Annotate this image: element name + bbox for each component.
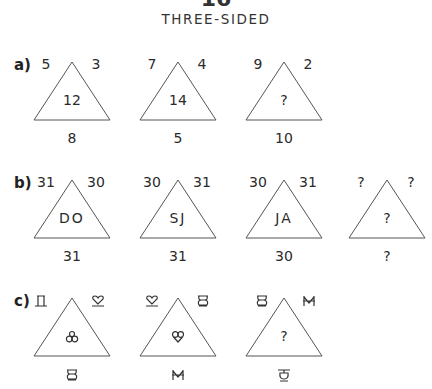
triangle-b4: ? ? ? ? [337,174,432,274]
m-glyph-icon [171,368,185,382]
top-right-value: 30 [76,174,116,190]
m-glyph-icon [302,294,316,308]
eight-glyph-icon [65,368,79,382]
center-value-unknown: ? [264,328,304,344]
page-title: THREE-SIDED [0,11,432,27]
bottom-value: 30 [264,248,304,264]
center-value: JA [264,210,304,226]
five-glyph-icon [277,368,291,382]
bottom-value: 5 [158,130,198,146]
top-right-value: 31 [288,174,328,190]
center-value-unknown: ? [264,92,304,108]
triangle-shape [128,292,228,362]
top-right-value: 3 [76,56,116,72]
top-left-value-unknown: ? [341,174,381,190]
triangle-b2: 30 31 SJ 31 [128,174,228,274]
triangle-a3: 9 2 ? 10 [234,56,334,156]
triangle-b3: 30 31 JA 30 [234,174,334,274]
heart-glyph-icon [145,294,159,308]
triangle-c3: ? [234,292,334,389]
triangle-c2 [128,292,228,389]
top-left-value: 9 [238,56,278,72]
bottom-value: 31 [52,248,92,264]
center-value: SJ [158,210,198,226]
eight-glyph-icon [196,294,210,308]
heart-glyph-icon [91,294,105,308]
top-left-value: 7 [132,56,172,72]
top-left-value: 30 [132,174,172,190]
top-left-value: 30 [238,174,278,190]
bottom-value: 10 [264,130,304,146]
triangle-a2: 7 4 14 5 [128,56,228,156]
eight-glyph-icon [255,294,269,308]
puzzle-number: 16 [0,0,432,11]
triangle-a1: 5 3 12 8 [22,56,122,156]
top-right-value: 4 [182,56,222,72]
nine-glyph-icon [171,330,185,344]
trefoil-glyph-icon [65,330,79,344]
top-right-value: 31 [182,174,222,190]
top-right-value-unknown: ? [391,174,431,190]
bottom-value: 31 [158,248,198,264]
triangle-b1: 31 30 DO 31 [22,174,122,274]
top-right-value: 2 [288,56,328,72]
center-value: 14 [158,92,198,108]
top-left-value: 31 [26,174,66,190]
center-value: DO [52,210,92,226]
bottom-value-unknown: ? [367,248,407,264]
center-value-unknown: ? [367,210,407,226]
triangle-c1 [22,292,122,389]
pi-glyph-icon [34,294,48,308]
bottom-value: 8 [52,130,92,146]
center-value: 12 [52,92,92,108]
top-left-value: 5 [26,56,66,72]
triangle-shape [234,292,334,362]
